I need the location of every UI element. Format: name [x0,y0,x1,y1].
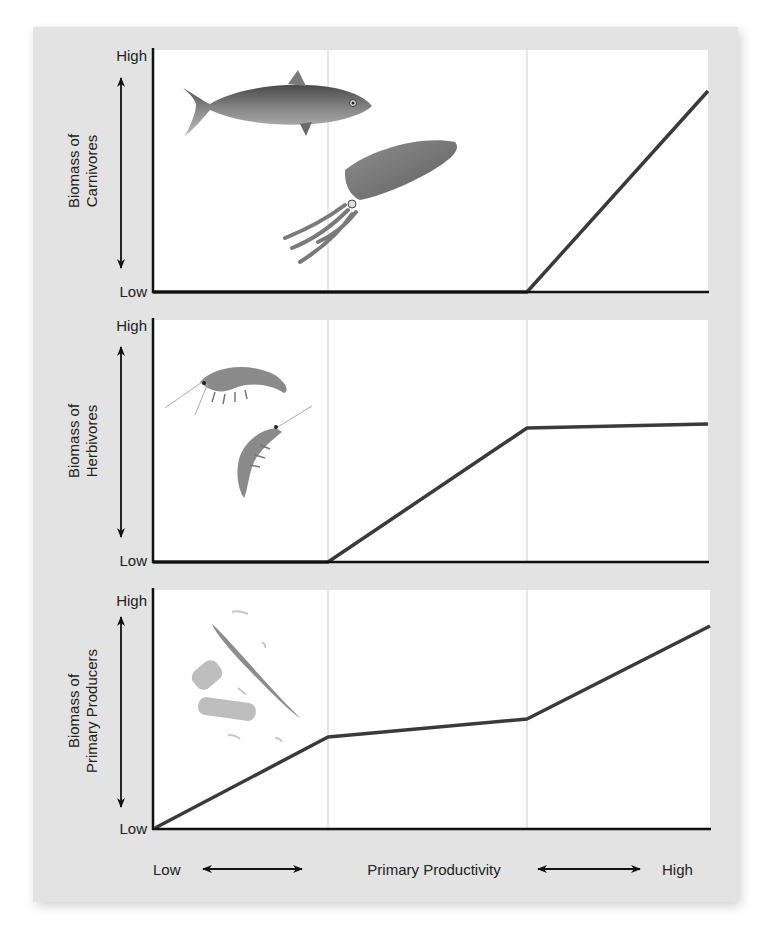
x-axis-title: Primary Productivity [367,861,501,878]
y-axis-label-line1: Biomass of [65,403,82,478]
y-axis-label-line1: Biomass of [65,133,82,208]
x-axis-low-label: Low [153,861,181,878]
y-tick-low: Low [119,820,147,837]
plot-area [153,320,708,562]
y-tick-low: Low [119,552,147,569]
chart-figure: High Low Biomass of Carnivores High Low … [0,0,762,927]
y-tick-low: Low [119,283,147,300]
y-axis-label-line2: Herbivores [83,405,100,478]
y-axis-label-line2: Primary Producers [83,649,100,773]
chart-herbivores [121,318,709,563]
y-tick-high: High [116,592,147,609]
y-tick-high: High [116,47,147,64]
chart-carnivores [121,48,709,293]
y-tick-high: High [116,317,147,334]
y-axis-label-line1: Biomass of [65,673,82,748]
x-axis-high-label: High [662,861,693,878]
y-axis-label-line2: Carnivores [83,135,100,208]
chart-primary-producers [121,588,711,830]
